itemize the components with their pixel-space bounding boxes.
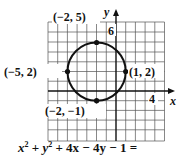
point-left — [65, 69, 70, 74]
y-axis-arrow-icon — [113, 9, 119, 16]
x-tick-label: 4 — [149, 92, 155, 106]
grid — [48, 22, 165, 141]
coordinate-plane: (−2, 5) (−5, 2) (1, 2) (−2, −1) 6 4 y x — [0, 0, 181, 161]
point-bottom — [94, 98, 99, 103]
point-left-label: (−5, 2) — [4, 65, 37, 79]
y-tick-label: 6 — [108, 24, 114, 38]
point-top — [94, 40, 99, 45]
equation: x2 + y2 + 4x − 4y − 1 = — [18, 140, 137, 156]
point-bottom-label: (−2, −1) — [45, 104, 85, 118]
point-right-label: (1, 2) — [129, 65, 155, 79]
x-axis-label: x — [169, 94, 176, 108]
point-top-label: (−2, 5) — [53, 10, 86, 24]
point-right — [123, 69, 128, 74]
y-axis-label: y — [102, 5, 110, 19]
equation-tail: + 4x − 4y − 1 = — [52, 140, 137, 155]
